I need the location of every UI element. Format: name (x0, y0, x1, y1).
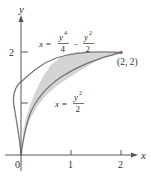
svg-text:y: y (58, 32, 63, 42)
point-label: (2, 2) (117, 57, 138, 68)
svg-text:x =: x = (38, 39, 51, 49)
svg-text:y: y (83, 32, 88, 42)
region-diagram: y x 0 1 2 2 x = y 4 4 − y 2 2 (2, 2) x =… (0, 0, 151, 178)
svg-text:y: y (73, 92, 78, 102)
point-2-2 (119, 51, 123, 55)
svg-text:4: 4 (64, 30, 67, 36)
y-tick-label-2: 2 (9, 47, 14, 58)
x-tick-label-1: 1 (68, 159, 73, 170)
origin-label: 0 (15, 159, 20, 170)
y-axis-label: y (18, 3, 24, 15)
x-tick-label-2: 2 (118, 159, 123, 170)
svg-text:−: − (73, 39, 78, 49)
svg-text:2: 2 (76, 104, 81, 114)
svg-text:4: 4 (61, 44, 66, 54)
svg-text:2: 2 (79, 90, 82, 96)
svg-text:2: 2 (86, 44, 91, 54)
equation-upper-curve: x = y 4 4 − y 2 2 (38, 30, 94, 54)
y-axis-arrow-icon (19, 15, 24, 22)
equation-lower-curve: x = y 2 2 (54, 90, 84, 114)
svg-text:x =: x = (54, 99, 67, 109)
svg-text:2: 2 (89, 30, 92, 36)
x-axis-label: x (140, 149, 146, 161)
x-axis-arrow-icon (131, 153, 138, 158)
